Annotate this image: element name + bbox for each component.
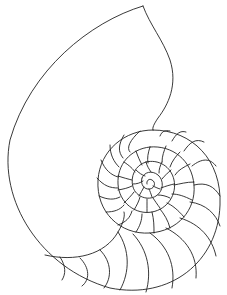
- septum: [118, 186, 132, 190]
- chamber-inner-boundary: [45, 212, 124, 258]
- septum: [172, 194, 192, 200]
- nautilus-illustration: Nautilus shell line drawing: [0, 0, 227, 295]
- septum: [136, 151, 142, 165]
- spiral-whorl-1: [98, 130, 194, 233]
- septum: [97, 178, 118, 188]
- spiral-whorl-3: [132, 162, 162, 198]
- septum: [180, 218, 216, 256]
- septum: [100, 250, 110, 288]
- septum: [153, 186, 160, 189]
- septum: [136, 170, 145, 176]
- septum: [166, 228, 196, 278]
- septum: [118, 176, 132, 180]
- septum: [134, 197, 140, 210]
- septum: [118, 211, 132, 225]
- septum: [190, 202, 220, 226]
- septum: [161, 184, 174, 188]
- nautilus-shell-drawing: [0, 0, 227, 295]
- septum: [162, 170, 171, 179]
- septum: [160, 209, 170, 228]
- septum: [149, 189, 152, 197]
- septum: [170, 152, 180, 167]
- septum: [118, 232, 127, 290]
- septum: [80, 258, 88, 286]
- septum: [60, 257, 65, 280]
- shell-aperture-lip: [143, 6, 173, 130]
- septum: [175, 164, 190, 175]
- septum: [124, 192, 134, 203]
- septum: [158, 195, 170, 198]
- septum: [159, 162, 162, 173]
- septum: [99, 196, 120, 199]
- septum: [148, 147, 150, 163]
- spiral-whorl-2: [118, 147, 175, 212]
- septum: [150, 233, 173, 288]
- septum: [146, 162, 151, 172]
- septum: [152, 212, 154, 233]
- septum: [106, 205, 124, 212]
- septum: [139, 187, 144, 196]
- septum: [167, 203, 184, 217]
- septum: [153, 198, 160, 208]
- septum: [136, 214, 142, 232]
- septum: [174, 182, 194, 185]
- septum: [133, 234, 149, 292]
- septum: [194, 184, 220, 196]
- septum: [124, 162, 135, 172]
